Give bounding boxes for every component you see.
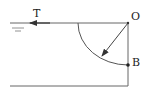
radial-force-arrow xyxy=(102,23,128,56)
point-b-marker xyxy=(126,63,130,67)
tension-label: T xyxy=(33,7,41,20)
hinge-label: O xyxy=(131,10,140,23)
gate-arc xyxy=(78,23,128,65)
water-level-icon xyxy=(12,28,24,31)
hinge-point xyxy=(127,22,129,24)
point-b-label: B xyxy=(132,56,140,69)
diagram-canvas: T O B xyxy=(0,0,146,92)
